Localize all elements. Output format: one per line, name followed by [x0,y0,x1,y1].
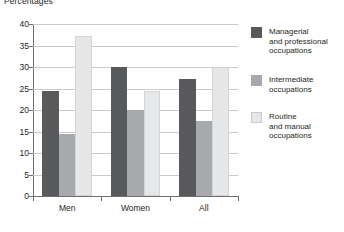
bar [196,121,213,196]
y-tick-label: 25 [20,85,29,94]
y-tick-label: 15 [20,128,29,137]
y-tick-label: 40 [20,20,29,29]
bar [59,134,76,196]
x-tick-label: Women [101,203,169,213]
legend-swatch-icon [251,112,262,123]
bar [179,79,196,196]
x-tick-label: Men [33,203,101,213]
bar [212,67,229,196]
x-tick-mark [238,196,239,201]
legend-label: Routine and manual occupations [269,112,312,141]
y-tick-label: 30 [20,63,29,72]
y-tick-label: 20 [20,106,29,115]
bar [111,67,128,196]
chart-container: Percentages 0510152025303540 MenWomenAll… [0,0,344,232]
legend-item: Intermediate occupations [251,75,313,94]
bar [144,91,161,196]
x-tick-mark [170,196,171,201]
bar-series-layer [33,24,238,196]
legend-swatch-icon [251,75,262,86]
y-tick-label: 35 [20,42,29,51]
bar [42,91,59,196]
x-tick-mark [101,196,102,201]
chart-title: Percentages [4,0,53,6]
x-axis-line [33,196,239,197]
legend-item: Routine and manual occupations [251,112,312,141]
plot-area [33,24,238,196]
x-tick-mark [33,196,34,201]
y-axis-labels: 0510152025303540 [0,24,29,197]
legend-swatch-icon [251,27,262,38]
legend-label: Managerial and professional occupations [269,27,328,56]
x-tick-label: All [170,203,238,213]
legend-item: Managerial and professional occupations [251,27,328,56]
legend-label: Intermediate occupations [269,75,313,94]
bar [75,36,92,196]
bar [127,110,144,196]
y-tick-label: 10 [20,149,29,158]
